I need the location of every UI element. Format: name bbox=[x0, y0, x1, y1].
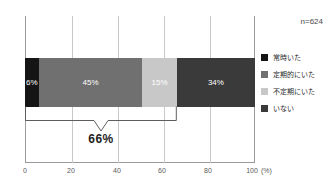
bar-segment-label: 45% bbox=[83, 79, 99, 87]
bracket-value-label: 66% bbox=[25, 132, 177, 146]
legend-swatch-icon bbox=[261, 71, 268, 78]
bar-segment-futeiki-ni-ita: 15% bbox=[142, 58, 177, 107]
xtick-label-0: 0 bbox=[23, 167, 27, 174]
stacked-bar-chart: n=624 6% 45% 15% 34% 66% 0 20 40 60 80 1… bbox=[0, 0, 335, 194]
sample-size-label: n=624 bbox=[301, 17, 323, 26]
xtick-label-100: 100 bbox=[246, 167, 258, 174]
bar-segment-jouji-ita: 6% bbox=[25, 58, 39, 107]
xtick-label-40: 40 bbox=[113, 167, 121, 174]
xtick-label-20: 20 bbox=[67, 167, 75, 174]
legend-item-inai[interactable]: いない bbox=[261, 100, 335, 117]
bar-segment-teikiteki-ni-ita: 45% bbox=[39, 58, 143, 107]
legend-item-label: 不定期にいた bbox=[273, 88, 315, 95]
bar-segment-label: 15% bbox=[152, 79, 168, 87]
legend-item-label: 常時いた bbox=[273, 54, 301, 61]
legend: 常時いた 定期的にいた 不定期にいた いない bbox=[261, 49, 335, 117]
bar-segment-inai: 34% bbox=[177, 58, 255, 107]
legend-item-teikiteki-ni-ita[interactable]: 定期的にいた bbox=[261, 66, 335, 83]
bar-segment-label: 34% bbox=[208, 79, 224, 87]
legend-swatch-icon bbox=[261, 105, 268, 112]
xtick-label-60: 60 bbox=[158, 167, 166, 174]
xaxis-unit-label: (%) bbox=[261, 167, 272, 174]
bar-series-group: 6% 45% 15% 34% bbox=[25, 58, 255, 107]
xtick-label-80: 80 bbox=[204, 167, 212, 174]
legend-item-futeiki-ni-ita[interactable]: 不定期にいた bbox=[261, 83, 335, 100]
bar-segment-label: 6% bbox=[26, 79, 38, 87]
legend-item-label: 定期的にいた bbox=[273, 71, 315, 78]
legend-swatch-icon bbox=[261, 54, 268, 61]
legend-item-label: いない bbox=[273, 105, 294, 112]
legend-item-jouji-ita[interactable]: 常時いた bbox=[261, 49, 335, 66]
legend-swatch-icon bbox=[261, 88, 268, 95]
